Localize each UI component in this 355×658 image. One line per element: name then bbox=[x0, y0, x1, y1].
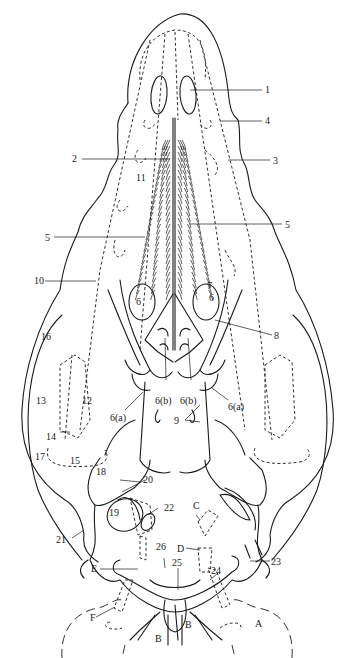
label-24: 24 bbox=[211, 565, 221, 576]
label-20: 20 bbox=[143, 474, 153, 485]
skull-outline bbox=[22, 14, 334, 562]
label-4: 4 bbox=[265, 115, 270, 126]
label-6a-left: 6(a) bbox=[110, 412, 126, 424]
ruga-stroke bbox=[166, 140, 170, 150]
skull-diagram: 1 2 3 4 5 5 6 6 6(b) 6(b) 6(a) 6(a) 7 8 … bbox=[0, 0, 355, 658]
label-C: C bbox=[193, 500, 200, 511]
median-palatine-suture bbox=[173, 118, 175, 350]
label-13: 13 bbox=[36, 395, 46, 406]
label-1: 1 bbox=[265, 84, 270, 95]
label-19: 19 bbox=[109, 507, 119, 518]
label-18: 18 bbox=[96, 466, 106, 477]
label-14: 14 bbox=[46, 431, 56, 442]
label-23: 23 bbox=[271, 556, 281, 567]
diagram-canvas: 1 2 3 4 5 5 6 6 6(b) 6(b) 6(a) 6(a) 7 8 … bbox=[0, 0, 355, 658]
label-E: E bbox=[91, 563, 97, 574]
label-10: 10 bbox=[34, 275, 44, 286]
label-15: 15 bbox=[70, 455, 80, 466]
label-F: F bbox=[90, 612, 96, 623]
label-6-right: 6 bbox=[209, 292, 214, 303]
label-6b-right: 6(b) bbox=[180, 395, 197, 407]
incisive-foramina bbox=[149, 75, 197, 114]
label-B-right: B bbox=[185, 619, 192, 630]
label-A: A bbox=[255, 618, 263, 629]
label-9: 9 bbox=[174, 415, 179, 426]
label-3: 3 bbox=[273, 155, 278, 166]
label-6b-left: 6(b) bbox=[155, 395, 172, 407]
label-6-left: 6 bbox=[136, 296, 141, 307]
label-6a-right: 6(a) bbox=[228, 401, 244, 413]
label-17: 17 bbox=[35, 451, 45, 462]
labels: 1 2 3 4 5 5 6 6 6(b) 6(b) 6(a) 6(a) 7 8 … bbox=[34, 84, 290, 644]
label-2: 2 bbox=[72, 153, 77, 164]
palatine-rugae bbox=[135, 140, 212, 300]
label-D: D bbox=[177, 543, 184, 554]
label-25: 25 bbox=[172, 557, 182, 568]
label-5-left: 5 bbox=[45, 232, 50, 243]
label-7: 7 bbox=[207, 280, 212, 291]
label-11: 11 bbox=[136, 172, 146, 183]
label-16: 16 bbox=[41, 331, 51, 342]
label-21: 21 bbox=[56, 534, 66, 545]
label-26: 26 bbox=[156, 541, 166, 552]
label-B-left: B bbox=[155, 633, 162, 644]
ruga-stroke bbox=[178, 140, 182, 150]
label-5-right: 5 bbox=[285, 219, 290, 230]
label-12: 12 bbox=[82, 395, 92, 406]
label-8: 8 bbox=[274, 330, 279, 341]
label-22: 22 bbox=[164, 502, 174, 513]
